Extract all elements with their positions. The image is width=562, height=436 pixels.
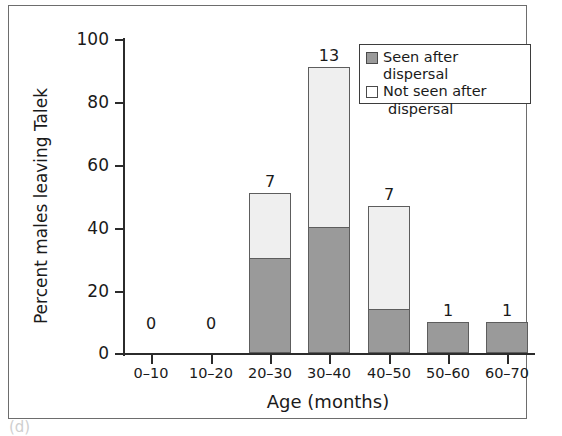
x-tick-label-60-70: 60–70 xyxy=(469,366,545,381)
bar-40-50 xyxy=(368,206,410,353)
legend-label-not-seen-continued: dispersal xyxy=(388,101,525,118)
bar-segment-seen-20-30 xyxy=(249,258,291,353)
y-tick-label-0: 0 xyxy=(53,345,109,362)
legend-entry-not-seen: Not seen after xyxy=(366,83,525,100)
bar-60-70 xyxy=(486,322,528,353)
x-axis-line xyxy=(121,353,535,355)
y-tick-label-20: 20 xyxy=(53,283,109,300)
x-tick-30-40 xyxy=(329,355,331,364)
legend-swatch-seen-icon xyxy=(366,52,378,64)
bar-20-30 xyxy=(249,193,291,353)
x-tick-60-70 xyxy=(507,355,509,364)
y-tick-label-100: 100 xyxy=(53,31,109,48)
y-tick-0 xyxy=(115,353,124,355)
y-tick-label-60: 60 xyxy=(53,157,109,174)
bar-segment-seen-50-60 xyxy=(427,322,469,353)
x-tick-40-50 xyxy=(389,355,391,364)
bar-count-40-50: 7 xyxy=(359,187,419,203)
chart-legend: Seen after dispersal Not seen after disp… xyxy=(359,44,531,104)
bar-count-10-20: 0 xyxy=(181,316,241,332)
y-tick-100 xyxy=(115,39,124,41)
bar-count-0-10: 0 xyxy=(121,316,181,332)
bar-segment-not-seen-20-30 xyxy=(249,193,291,259)
y-tick-label-40: 40 xyxy=(53,220,109,237)
legend-label-seen: Seen after dispersal xyxy=(383,49,525,82)
bar-50-60 xyxy=(427,322,469,353)
panel-tag: (d) xyxy=(9,418,30,436)
y-tick-label-80: 80 xyxy=(53,94,109,111)
legend-label-not-seen: Not seen after xyxy=(383,83,487,100)
bar-segment-seen-40-50 xyxy=(368,309,410,353)
bar-count-60-70: 1 xyxy=(477,303,537,319)
bar-count-20-30: 7 xyxy=(240,174,300,190)
y-tick-40 xyxy=(115,228,124,230)
bar-segment-not-seen-30-40 xyxy=(308,67,350,228)
x-tick-10-20 xyxy=(211,355,213,364)
bar-segment-seen-60-70 xyxy=(486,322,528,353)
y-tick-80 xyxy=(115,102,124,104)
y-axis-line xyxy=(123,38,125,356)
figure-panel: 100 80 60 40 20 0 Percent males leaving … xyxy=(0,0,562,436)
y-tick-20 xyxy=(115,291,124,293)
y-tick-60 xyxy=(115,165,124,167)
bar-segment-seen-30-40 xyxy=(308,227,350,353)
x-axis-label: Age (months) xyxy=(123,391,533,412)
legend-entry-seen: Seen after dispersal xyxy=(366,49,525,82)
bar-30-40 xyxy=(308,67,350,353)
x-tick-20-30 xyxy=(270,355,272,364)
x-tick-0-10 xyxy=(151,355,153,364)
x-tick-50-60 xyxy=(448,355,450,364)
bar-segment-not-seen-40-50 xyxy=(368,206,410,310)
bar-count-50-60: 1 xyxy=(418,303,478,319)
y-axis-label: Percent males leaving Talek xyxy=(31,56,51,356)
legend-swatch-not-seen-icon xyxy=(366,86,378,98)
bar-count-30-40: 13 xyxy=(299,48,359,64)
figure-frame: 100 80 60 40 20 0 Percent males leaving … xyxy=(8,5,527,419)
